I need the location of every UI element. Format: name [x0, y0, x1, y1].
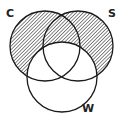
label-w: W [82, 102, 94, 115]
label-s: S [108, 7, 116, 20]
label-c: C [6, 7, 14, 20]
venn-diagram: C S W [0, 0, 124, 118]
shaded-region [10, 11, 113, 81]
